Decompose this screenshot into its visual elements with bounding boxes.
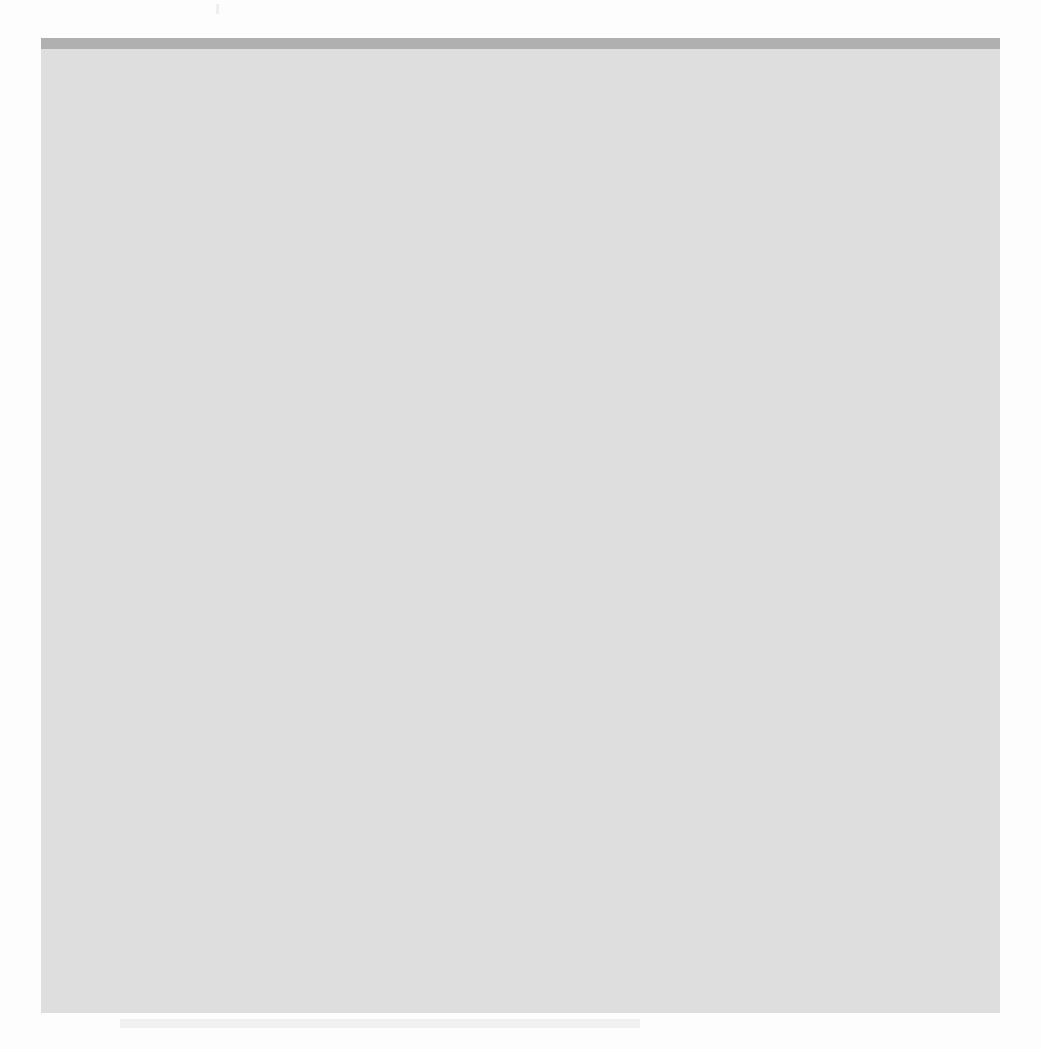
- plot-area-ethnic-background: [41, 101, 1000, 511]
- line-chart-ethnic-background: [41, 101, 1000, 511]
- chart-ethnic-background: [41, 49, 1000, 519]
- panel-top-bar: [41, 38, 1000, 49]
- scan-speckle-top: [216, 4, 219, 14]
- chart-family-income: [41, 519, 1000, 989]
- line-chart-family-income: [41, 571, 1000, 981]
- scanned-page: [0, 0, 1041, 1049]
- figure-panel: [41, 38, 1000, 1013]
- plot-area-family-income: [41, 571, 1000, 981]
- scan-speckle-bottom: [120, 1019, 640, 1028]
